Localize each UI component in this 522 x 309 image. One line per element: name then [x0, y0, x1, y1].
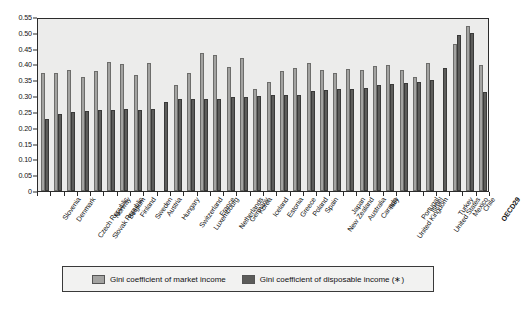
- y-axis-tick-label: 0.20: [18, 125, 32, 133]
- bar-disposable-income: [71, 112, 75, 191]
- bar-disposable-income: [443, 68, 447, 191]
- bar-group: [65, 18, 78, 191]
- bar-group: [304, 18, 317, 191]
- bar-disposable-income: [311, 91, 315, 191]
- bar-disposable-income: [98, 110, 102, 191]
- y-axis-tick-label: 0.30: [18, 93, 32, 101]
- bar-group: [251, 18, 264, 191]
- bar-group: [344, 18, 357, 191]
- bar-group: [410, 18, 423, 191]
- bar-group: [384, 18, 397, 191]
- y-axis-tick-label: 0.15: [18, 141, 32, 149]
- bar-disposable-income: [244, 97, 248, 191]
- bar-disposable-income: [191, 99, 195, 191]
- y-axis-tick-label: 0.40: [18, 61, 32, 69]
- bar-disposable-income: [417, 82, 421, 191]
- legend-label-market: Gini coefficient of market income: [110, 275, 226, 284]
- bar-group: [171, 18, 184, 191]
- plot-area: [37, 18, 489, 192]
- legend-label-disposable: Gini coefficient of disposable income (∗…: [260, 275, 404, 284]
- legend-swatch-market-icon: [92, 275, 105, 284]
- bar-disposable-income: [257, 96, 261, 191]
- legend-item-market: Gini coefficient of market income: [92, 275, 226, 284]
- bar-disposable-income: [124, 109, 128, 191]
- bar-group: [450, 18, 463, 191]
- bar-group: [437, 18, 450, 191]
- bar-group: [38, 18, 51, 191]
- bar-group: [397, 18, 410, 191]
- bar-disposable-income: [271, 95, 275, 191]
- bar-group: [370, 18, 383, 191]
- chart-legend: Gini coefficient of market income Gini c…: [62, 266, 434, 292]
- y-axis-tick-label: 0.05: [18, 172, 32, 180]
- bar-disposable-income: [470, 33, 474, 191]
- bar-disposable-income: [85, 111, 89, 191]
- bar-disposable-income: [111, 110, 115, 191]
- bar-disposable-income: [45, 119, 49, 191]
- bar-group: [477, 18, 489, 191]
- bar-disposable-income: [364, 88, 368, 191]
- bar-group: [78, 18, 91, 191]
- bar-group: [144, 18, 157, 191]
- bar-disposable-income: [390, 84, 394, 191]
- bar-disposable-income: [217, 99, 221, 191]
- bar-disposable-income: [350, 89, 354, 192]
- bar-group: [131, 18, 144, 191]
- bar-group: [317, 18, 330, 191]
- x-axis-labels: SloveniaDenmarkCzech RepublicSlovak Repu…: [0, 196, 496, 258]
- y-axis-tick-label: 0: [28, 188, 32, 196]
- bar-disposable-income: [58, 114, 62, 191]
- y-axis-tick-label: 0.10: [18, 156, 32, 164]
- bar-disposable-income: [151, 109, 155, 191]
- bar-group: [158, 18, 171, 191]
- bar-disposable-income: [337, 89, 341, 191]
- bar-group: [118, 18, 131, 191]
- bar-group: [237, 18, 250, 191]
- bar-disposable-income: [204, 99, 208, 191]
- bar-disposable-income: [178, 99, 182, 191]
- bar-group: [463, 18, 476, 191]
- bar-disposable-income: [297, 95, 301, 191]
- bar-disposable-income: [164, 102, 168, 191]
- y-axis-tick-label: 0.50: [18, 30, 32, 38]
- legend-item-disposable: Gini coefficient of disposable income (∗…: [242, 275, 404, 284]
- bar-disposable-income: [231, 97, 235, 191]
- bar-group: [51, 18, 64, 191]
- bar-group: [264, 18, 277, 191]
- bar-disposable-income: [404, 83, 408, 191]
- bar-group: [104, 18, 117, 191]
- y-axis-tick-label: 0.55: [18, 14, 32, 22]
- bar-group: [91, 18, 104, 191]
- legend-swatch-disposable-icon: [242, 275, 255, 284]
- y-axis-tick-label: 0.25: [18, 109, 32, 117]
- bar-group: [184, 18, 197, 191]
- bar-disposable-income: [284, 95, 288, 191]
- y-axis-tick-label: 0.35: [18, 77, 32, 85]
- bar-group: [277, 18, 290, 191]
- bar-disposable-income: [324, 90, 328, 191]
- bar-group: [330, 18, 343, 191]
- bar-disposable-income: [483, 92, 487, 191]
- y-axis: 0.550.500.450.400.350.300.250.200.150.10…: [0, 18, 37, 192]
- bar-group: [224, 18, 237, 191]
- bar-group: [211, 18, 224, 191]
- bar-group: [198, 18, 211, 191]
- y-axis-tick-label: 0.45: [18, 46, 32, 54]
- x-axis-label: OECD29: [500, 196, 522, 223]
- bar-disposable-income: [377, 85, 381, 191]
- bar-group: [357, 18, 370, 191]
- bar-disposable-income: [430, 80, 434, 191]
- bar-disposable-income: [138, 110, 142, 191]
- bar-group: [424, 18, 437, 191]
- bar-disposable-income: [457, 35, 461, 191]
- bar-group: [291, 18, 304, 191]
